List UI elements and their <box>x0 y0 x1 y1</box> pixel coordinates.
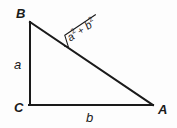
side-label-a: a <box>14 57 21 72</box>
vertex-label-a: A <box>157 102 167 117</box>
vertex-label-c: C <box>14 100 24 115</box>
vertex-label-b: B <box>16 6 25 21</box>
side-label-b: b <box>86 110 93 125</box>
triangle-figure: B C A a b a 2 + b 2 <box>0 0 177 128</box>
triangle-diagram-svg: B C A a b a 2 + b 2 <box>0 0 177 128</box>
hypotenuse-expression-group: a 2 + b 2 <box>58 12 102 48</box>
triangle-side-hypotenuse <box>30 22 153 105</box>
